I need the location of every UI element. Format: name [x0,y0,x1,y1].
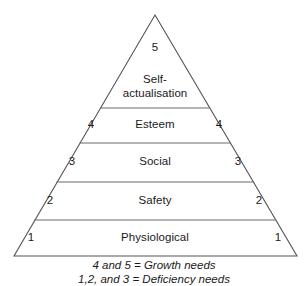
maslow-pyramid-diagram: 5 Self-actualisation 4 Esteem 4 3 Social… [0,0,308,286]
pyramid-caption: 4 and 5 = Growth needs 1,2, and 3 = Defi… [0,259,308,286]
caption-line-growth-needs: 4 and 5 = Growth needs [0,259,308,273]
pyramid-shape [0,0,308,286]
caption-line-deficiency-needs: 1,2, and 3 = Deficiency needs [0,273,308,286]
